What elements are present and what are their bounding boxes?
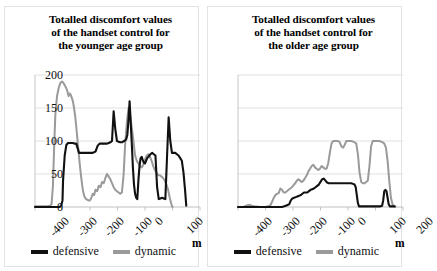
legend-label-dynamic: dynamic <box>135 244 176 259</box>
legend-swatch-defensive-icon <box>234 250 251 254</box>
x-tick-label: -300 <box>277 214 303 240</box>
legend-item-defensive[interactable]: defensive <box>234 244 302 259</box>
legend-younger: defensive dynamic <box>13 244 194 259</box>
x-tick-label: 0 <box>152 214 167 229</box>
y-tick-label: 100 <box>45 135 63 147</box>
x-tick-label: -400 <box>46 214 72 240</box>
legend-swatch-dynamic-icon <box>316 250 333 254</box>
x-tick-label: -400 <box>249 214 275 240</box>
x-axis-labels-older: -400-300-200-1000100200 <box>208 7 401 266</box>
legend-label-defensive: defensive <box>256 244 302 259</box>
chart-panel-younger-frame: Totalled discomfort values of the handse… <box>4 6 199 267</box>
legend-item-dynamic[interactable]: dynamic <box>113 244 176 259</box>
x-tick-label: -200 <box>101 214 127 240</box>
x-tick-label: -200 <box>304 214 330 240</box>
chart-panel-older: Totalled discomfort values of the handse… <box>203 0 406 271</box>
legend-swatch-dynamic-icon <box>113 250 130 254</box>
legend-item-defensive[interactable]: defensive <box>31 244 99 259</box>
chart-panel-younger: Totalled discomfort values of the handse… <box>0 0 203 271</box>
legend-label-defensive: defensive <box>53 244 99 259</box>
y-tick-label: 150 <box>45 102 63 114</box>
legend-item-dynamic[interactable]: dynamic <box>316 244 379 259</box>
y-tick-label: 50 <box>51 168 63 180</box>
x-tick-label: 0 <box>355 214 370 229</box>
x-axis-labels-younger: -400-300-200-1000100200 <box>5 7 198 266</box>
y-tick-label: 200 <box>45 69 63 81</box>
x-tick-label: -300 <box>74 214 100 240</box>
legend-label-dynamic: dynamic <box>338 244 379 259</box>
chart-panel-older-frame: Totalled discomfort values of the handse… <box>207 6 402 267</box>
legend-swatch-defensive-icon <box>31 250 48 254</box>
y-tick-label: 0 <box>57 201 63 213</box>
x-tick-label: 200 <box>413 214 436 237</box>
legend-older: defensive dynamic <box>216 244 397 259</box>
